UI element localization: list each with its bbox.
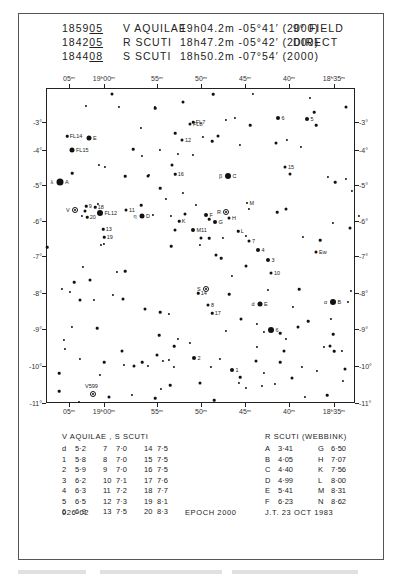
greek-letter-label: λ [51,179,54,185]
star-magnitude: 6·2 [75,476,86,485]
field-star [212,93,215,96]
table-row: D4·99 [265,476,293,487]
ra-tick-top [334,84,335,88]
comparison-star [197,292,200,295]
star-id: B [265,455,278,466]
comparison-star [230,368,234,372]
star-id: 9 [103,465,116,476]
field-star [184,213,187,216]
star-id: 3 [62,476,75,487]
comparison-star-label: E [264,301,268,307]
dec-tick-right [355,122,359,123]
comparison-star [204,213,208,217]
dec-tick-left [42,366,46,367]
field-star [313,111,316,114]
table-row: 147·5 [144,444,168,455]
dec-tick-label-right: -8° [359,290,368,297]
comparison-star-label: 19 [107,234,113,240]
field-star [345,106,348,109]
comparison-star-label: FL7 [196,119,205,125]
field-star [298,288,301,291]
dec-tick-label-left: -8° [22,290,42,297]
comparison-star [270,272,273,275]
comparison-star-label: FL15 [76,147,89,153]
star-id: E [265,486,278,497]
field-star [211,140,214,143]
table-row: 198·1 [144,497,168,508]
field-star [329,345,332,348]
field-star [249,124,252,127]
table-row: C4·40 [265,465,293,476]
table-row: A3·41 [265,444,293,455]
field-star [334,181,337,184]
comparison-star-label: 18 [98,204,104,210]
field-star [169,384,172,387]
comparison-star [97,210,103,216]
comparison-star-label: 6 [282,115,285,121]
ra-tick-label-bottom: 19ʰ00ᵐ [93,408,115,415]
ra-tick-top [157,84,158,88]
ra-tick-top [289,84,290,88]
ra-tick-top [69,84,70,88]
comparison-star-label: C [233,173,237,179]
header-note: DIRECT [293,36,338,48]
field-star [89,279,92,282]
dec-tick-label-right: -7° [359,253,368,260]
ra-tick-bottom [289,403,290,407]
table-row: M8·31 [318,486,346,497]
comparison-star [125,209,128,212]
field-star [239,376,242,379]
star-magnitude: 5·8 [75,455,86,464]
ra-tick-label-bottom: 18ʰ35ᵐ [323,408,345,415]
star-magnitude: 8·1 [157,497,168,506]
field-star [46,246,49,249]
field-star [240,318,243,321]
comparison-star [305,117,309,121]
ra-tick-label-top: 18ʰ35ᵐ [323,75,345,82]
field-star [140,204,143,207]
comparison-star [276,116,280,120]
comparison-star-label: D [146,213,150,219]
comparison-star [94,206,97,209]
field-star [159,311,162,314]
dec-tick-label-right: -10° [359,363,372,370]
dec-tick-label-right: -5° [359,182,368,189]
field-star [71,172,74,175]
variable-star-label: V [66,207,70,213]
table-row: 15·8 [62,455,86,466]
field-star [84,210,87,213]
table-row: d5·2 [62,444,86,455]
star-id: C [265,465,278,476]
comparison-star [256,248,260,252]
dec-tick-label-right: -9° [359,326,368,333]
comparison-star-label: G [219,219,223,225]
field-star [217,135,220,138]
comparison-star [228,217,231,220]
dec-tick-right [355,150,359,151]
star-id: 11 [103,486,116,497]
star-id: 16 [144,465,157,476]
star-magnitude: 4·40 [278,465,293,474]
comparison-star-label: 2 [198,355,201,361]
field-star [279,361,282,364]
comparison-star-label: B [338,299,342,305]
variable-star-label: V599 [85,383,98,389]
table-row: 25·9 [62,465,86,476]
ra-tick-bottom [104,403,105,407]
comparison-star [192,121,195,124]
star-id: 8 [103,455,116,466]
comparison-star [66,135,69,138]
comparison-star-label: Ew [319,249,327,255]
comparison-star [268,327,274,333]
star-magnitude: 6·5 [75,497,86,506]
field-star [349,227,352,230]
star-id: 2 [62,465,75,476]
table-row: E5·41 [265,486,293,497]
field-star [171,164,174,167]
star-magnitude: 5·2 [75,444,86,453]
comparison-star-label: 4 [262,247,265,253]
field-star [344,368,347,371]
table-column: 77·087·097·0107·1117·2127·3137·5 [103,444,127,518]
dec-tick-left [42,185,46,186]
table-row: 208·3 [144,507,168,518]
